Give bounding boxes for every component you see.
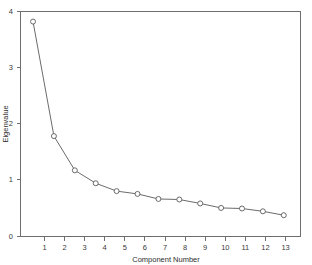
y-axis-title: Eigenvalue [1, 105, 10, 142]
x-tick-group-5: 5 [123, 236, 127, 252]
x-tick-group-4: 4 [103, 236, 107, 252]
y-tick-group-1: 1 [9, 175, 21, 184]
y-tick-group-4: 4 [9, 7, 21, 16]
x-tick-group-10: 10 [221, 236, 229, 252]
x-tick-label-6: 6 [143, 243, 147, 252]
x-tick-label-13: 13 [281, 243, 289, 252]
x-axis-title: Component Number [132, 255, 200, 264]
scree-plot-figure: 0 1 2 3 4 Eigenvalue [0, 0, 312, 265]
data-point [239, 206, 244, 211]
data-point [219, 205, 224, 210]
data-point [281, 213, 286, 218]
x-tick-label-7: 7 [163, 243, 167, 252]
x-tick-label-9: 9 [203, 243, 207, 252]
y-tick-label-0: 0 [9, 232, 13, 241]
data-point [135, 191, 140, 196]
x-tick-label-2: 2 [62, 243, 66, 252]
data-point [72, 168, 77, 173]
x-tick-label-5: 5 [123, 243, 127, 252]
x-tick-group-1: 1 [42, 236, 46, 252]
y-tick-group-3: 3 [9, 63, 21, 72]
y-tick-group-2: 2 [9, 119, 21, 128]
y-tick-label-3: 3 [9, 63, 13, 72]
plot-frame [21, 12, 301, 237]
chart-canvas: 0 1 2 3 4 Eigenvalue [0, 0, 312, 265]
x-axis: 1 2 3 4 5 6 7 [42, 236, 289, 252]
x-tick-label-1: 1 [42, 243, 46, 252]
y-tick-label-4: 4 [9, 7, 13, 16]
x-tick-group-2: 2 [62, 236, 66, 252]
x-tick-label-12: 12 [261, 243, 269, 252]
data-point [51, 134, 56, 139]
x-tick-label-11: 11 [242, 243, 250, 252]
data-point [31, 19, 36, 24]
data-point [198, 201, 203, 206]
x-tick-group-9: 9 [203, 236, 207, 252]
data-point [177, 197, 182, 202]
series-line [33, 22, 284, 216]
x-tick-group-12: 12 [261, 236, 269, 252]
x-tick-group-13: 13 [281, 236, 289, 252]
data-point [114, 189, 119, 194]
y-tick-label-1: 1 [9, 175, 13, 184]
series-markers [31, 19, 287, 218]
x-tick-label-10: 10 [221, 243, 229, 252]
x-tick-label-3: 3 [83, 243, 87, 252]
x-tick-group-8: 8 [183, 236, 187, 252]
data-point [156, 196, 161, 201]
x-tick-group-6: 6 [143, 236, 147, 252]
x-tick-label-4: 4 [103, 243, 107, 252]
x-tick-group-11: 11 [242, 236, 250, 252]
x-tick-group-7: 7 [163, 236, 167, 252]
y-tick-group-0: 0 [9, 232, 21, 241]
y-axis: 0 1 2 3 4 [9, 7, 21, 241]
eigenvalue-series [31, 19, 287, 218]
data-point [260, 209, 265, 214]
x-tick-group-3: 3 [83, 236, 87, 252]
data-point [93, 181, 98, 186]
x-tick-label-8: 8 [183, 243, 187, 252]
